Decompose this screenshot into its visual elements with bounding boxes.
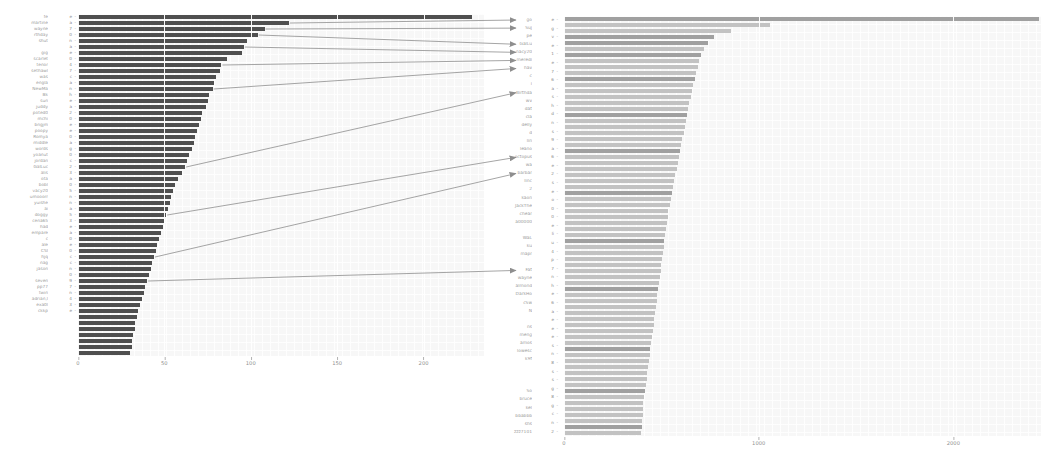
bar-row[interactable] (564, 317, 1041, 321)
bar-row[interactable] (564, 197, 1041, 201)
bar[interactable] (564, 119, 686, 123)
bar[interactable] (78, 81, 214, 85)
bar[interactable] (564, 407, 643, 411)
bar[interactable] (564, 299, 657, 303)
bar-row[interactable] (564, 281, 1041, 285)
bar[interactable] (564, 101, 689, 105)
bar[interactable] (564, 179, 674, 183)
bar-row[interactable] (564, 17, 1041, 21)
bar[interactable] (564, 155, 679, 159)
bar[interactable] (564, 329, 653, 333)
bar[interactable] (564, 233, 665, 237)
bar[interactable] (564, 263, 661, 267)
bar-row[interactable] (564, 305, 1041, 309)
bar[interactable] (564, 293, 657, 297)
bar[interactable] (564, 185, 673, 189)
bar-row[interactable] (564, 257, 1041, 261)
bar[interactable] (78, 135, 195, 139)
bar-row[interactable] (564, 107, 1041, 111)
bar[interactable] (78, 39, 247, 43)
bar-row[interactable] (564, 287, 1041, 291)
bar[interactable] (78, 195, 171, 199)
bar[interactable] (564, 377, 647, 381)
bar[interactable] (78, 45, 244, 49)
bar[interactable] (564, 287, 658, 291)
bar[interactable] (564, 131, 684, 135)
bar-row[interactable] (564, 233, 1041, 237)
bar[interactable] (78, 213, 166, 217)
bar[interactable] (564, 71, 696, 75)
bar[interactable] (564, 341, 651, 345)
bar[interactable] (564, 77, 695, 81)
bar-row[interactable] (564, 179, 1041, 183)
bar[interactable] (78, 87, 213, 91)
bar[interactable] (564, 401, 643, 405)
bar-row[interactable] (564, 119, 1041, 123)
bar[interactable] (564, 173, 675, 177)
bar-row[interactable] (564, 77, 1041, 81)
bar[interactable] (78, 243, 157, 247)
bar[interactable] (78, 291, 144, 295)
bar[interactable] (78, 309, 138, 313)
bar-row[interactable] (564, 209, 1041, 213)
bar[interactable] (564, 23, 770, 27)
bar[interactable] (564, 17, 1039, 21)
bar[interactable] (564, 413, 643, 417)
bar-row[interactable] (564, 95, 1041, 99)
bar[interactable] (564, 137, 682, 141)
bar[interactable] (564, 227, 666, 231)
bar-row[interactable] (564, 389, 1041, 393)
bar[interactable] (564, 317, 654, 321)
bar-row[interactable] (564, 383, 1041, 387)
bar[interactable] (564, 281, 659, 285)
bar[interactable] (78, 339, 132, 343)
bar[interactable] (564, 107, 688, 111)
bar-row[interactable] (564, 431, 1041, 435)
bar[interactable] (564, 311, 655, 315)
bar[interactable] (564, 269, 661, 273)
bar-row[interactable] (564, 239, 1041, 243)
bar[interactable] (564, 431, 641, 435)
bar-row[interactable] (564, 215, 1041, 219)
bar-row[interactable] (564, 167, 1041, 171)
bar-row[interactable] (564, 413, 1041, 417)
bar[interactable] (78, 297, 142, 301)
bar-row[interactable] (564, 203, 1041, 207)
bar-row[interactable] (564, 395, 1041, 399)
bar-row[interactable] (564, 137, 1041, 141)
bar-row[interactable] (564, 371, 1041, 375)
bar[interactable] (78, 219, 164, 223)
bar[interactable] (78, 105, 206, 109)
bar[interactable] (78, 15, 472, 19)
bar-row[interactable] (564, 335, 1041, 339)
bar-row[interactable] (564, 131, 1041, 135)
bar-row[interactable] (564, 143, 1041, 147)
bar[interactable] (78, 261, 152, 265)
bar-row[interactable] (564, 329, 1041, 333)
bar-row[interactable] (564, 359, 1041, 363)
bar-row[interactable] (564, 299, 1041, 303)
bar[interactable] (78, 267, 151, 271)
bar[interactable] (78, 345, 132, 349)
bar[interactable] (78, 321, 135, 325)
bar-row[interactable] (564, 341, 1041, 345)
bar[interactable] (564, 425, 642, 429)
bar[interactable] (78, 27, 265, 31)
bar-row[interactable] (564, 113, 1041, 117)
bar[interactable] (564, 113, 687, 117)
bar-row[interactable] (564, 377, 1041, 381)
bar[interactable] (78, 69, 220, 73)
bar-row[interactable] (564, 65, 1041, 69)
bar[interactable] (564, 89, 692, 93)
bar-row[interactable] (564, 161, 1041, 165)
bar[interactable] (564, 29, 731, 33)
bar[interactable] (564, 275, 660, 279)
bar[interactable] (78, 249, 156, 253)
bar[interactable] (78, 21, 289, 25)
bar[interactable] (564, 251, 663, 255)
bar[interactable] (78, 123, 199, 127)
bar[interactable] (78, 129, 197, 133)
bar-row[interactable] (564, 275, 1041, 279)
bar-row[interactable] (564, 221, 1041, 225)
bar[interactable] (564, 389, 645, 393)
